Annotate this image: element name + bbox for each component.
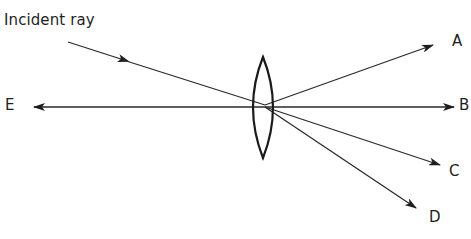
- lens-ray-diagram: Incident ray A B C D E: [0, 0, 471, 239]
- ray-a: [265, 45, 433, 105]
- ray-b-label: B: [459, 98, 469, 113]
- diagram-canvas: [0, 0, 471, 239]
- ray-d: [265, 107, 416, 208]
- incident-ray-label: Incident ray: [4, 13, 95, 28]
- ray-c: [265, 107, 440, 165]
- ray-a-label: A: [452, 34, 462, 49]
- incident-ray-segment-1: [68, 42, 124, 60]
- incident-ray-segment-2: [120, 59, 265, 105]
- ray-d-label: D: [429, 210, 441, 225]
- ray-c-label: C: [449, 164, 459, 179]
- ray-e-label: E: [5, 98, 14, 113]
